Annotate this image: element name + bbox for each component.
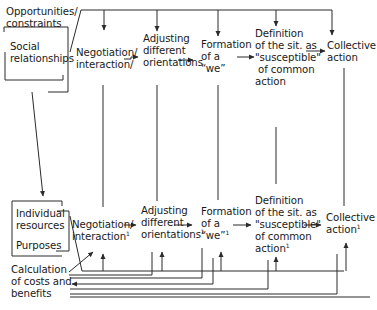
bottom-node-collective: Collective action1 (326, 212, 375, 236)
label: Adjusting (141, 205, 205, 217)
relationships-label: relationships (10, 53, 74, 65)
opportunities-label: Opportunities/ (6, 6, 78, 18)
benefits-label: benefits (11, 288, 72, 300)
label: "susceptible" (255, 52, 321, 64)
diagram-canvas: Opportunities/ constraints Social relati… (0, 0, 377, 310)
social-label: Social (10, 41, 74, 53)
individual-label: Individual (16, 208, 65, 220)
top-node-adjusting: Adjusting different orientations (143, 33, 203, 69)
costs-label: of costs and (11, 276, 72, 288)
constraints-label: constraints (6, 18, 78, 30)
top-node-formation: Formation of a “we” (201, 39, 252, 75)
footnote-marker: 1 (126, 230, 130, 237)
purposes: Purposes (16, 240, 61, 252)
label: “we” (201, 63, 252, 75)
label: action (326, 224, 357, 235)
bottom-node-formation: Formation of a “we”1 (201, 206, 252, 242)
label-with-sup: “we”1 (201, 230, 252, 242)
label: orientations (141, 229, 201, 240)
top-node-definition: Definition of the sit. as "susceptible" … (255, 28, 321, 88)
label: of a (201, 51, 252, 63)
bottom-node-definition: Definition of the sit. as "susceptible" … (255, 195, 321, 255)
label-with-sup: action1 (326, 224, 375, 236)
label: Formation (201, 206, 252, 218)
label: Definition (255, 195, 321, 207)
bottom-left-context: Individual resources (16, 208, 65, 232)
label: of the sit. as (255, 207, 321, 219)
label: orientations (143, 57, 203, 69)
label-with-sup: action1 (255, 243, 321, 255)
resources-label: resources (16, 220, 65, 232)
label: action (255, 243, 286, 254)
calculation-label: Calculation (11, 264, 72, 276)
label: Negotiation/ (76, 47, 137, 59)
label: different (143, 45, 203, 57)
label: interaction (72, 231, 126, 242)
label: "susceptible" (255, 219, 321, 231)
label: Collective (326, 212, 375, 224)
top-left-context: Opportunities/ constraints (6, 6, 78, 30)
bottom-node-adjusting: Adjusting different orientations1 (141, 205, 205, 241)
label: action (255, 76, 321, 88)
label: Formation (201, 39, 252, 51)
label-with-sup: orientations1 (141, 229, 205, 241)
footnote-marker: 1 (286, 242, 290, 249)
label-with-sup: interaction1 (72, 231, 133, 243)
footnote-marker: 1 (357, 223, 361, 230)
label: of common (255, 64, 321, 76)
calculation-costs-benefits: Calculation of costs and benefits (11, 264, 72, 300)
social-relationships: Social relationships (10, 41, 74, 65)
label: Definition (255, 28, 321, 40)
top-node-collective: Collective action (327, 40, 376, 64)
footnote-marker: 1 (225, 229, 229, 236)
label: “we” (201, 230, 225, 241)
label: interaction/ (76, 59, 137, 71)
label: of the sit. as (255, 40, 321, 52)
top-node-negotiation: Negotiation/ interaction/ (76, 47, 137, 71)
label: Adjusting (143, 33, 203, 45)
label: different (141, 217, 205, 229)
bottom-node-negotiation: Negotiation/ interaction1 (72, 219, 133, 243)
label: action (327, 52, 376, 64)
purposes-label: Purposes (16, 240, 61, 252)
arrow-social-to-individual (32, 92, 43, 196)
label: Negotiation/ (72, 219, 133, 231)
label: Collective (327, 40, 376, 52)
